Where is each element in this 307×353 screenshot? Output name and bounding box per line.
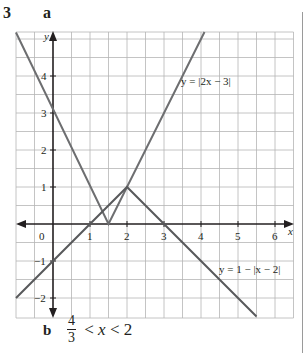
origin-label: 0 (39, 230, 45, 242)
curve-1-minus-abs-x-minus-2 (16, 187, 257, 317)
numerator: 4 (68, 314, 75, 328)
y-tick-1: 1 (41, 181, 47, 193)
y-tick-3: 3 (41, 107, 47, 119)
y-axis-arrow-down-icon (49, 308, 57, 318)
x-axis-label: x (287, 225, 293, 237)
x-tick-3: 3 (161, 230, 167, 242)
less-than-2: < 2 (106, 320, 133, 340)
y-tick-minus-1: −1 (34, 255, 46, 267)
grid (16, 32, 294, 318)
fraction: 4 3 (67, 314, 76, 345)
curve-abs-2x-minus-3 (16, 32, 205, 224)
variable-x: x (98, 320, 106, 340)
y-axis-arrow-up-icon (49, 31, 57, 41)
part-b-label: b (43, 322, 51, 339)
x-tick-6: 6 (272, 230, 278, 242)
x-tick-1: 1 (87, 230, 93, 242)
x-tick-4: 4 (198, 230, 204, 242)
part-b-answer: 4 3 < x < 2 (67, 314, 132, 345)
y-axis-label: y (43, 30, 49, 42)
y-tick-minus-2: −2 (34, 292, 46, 304)
x-tick-2: 2 (124, 230, 130, 242)
x-tick-5: 5 (235, 230, 241, 242)
denominator: 3 (68, 331, 75, 345)
less-than-1: < (80, 320, 98, 340)
graph: 0 1 2 3 4 5 6 4 3 2 1 −1 −2 x y y = |2x … (0, 0, 307, 353)
curve-label-abs-2x-minus-3: y = |2x − 3| (181, 75, 231, 87)
y-tick-2: 2 (41, 144, 47, 156)
x-axis-arrow-left-icon (16, 220, 26, 228)
y-tick-4: 4 (41, 70, 47, 82)
curve-label-1-minus-abs-x-minus-2: y = 1 − |x − 2| (219, 263, 281, 275)
